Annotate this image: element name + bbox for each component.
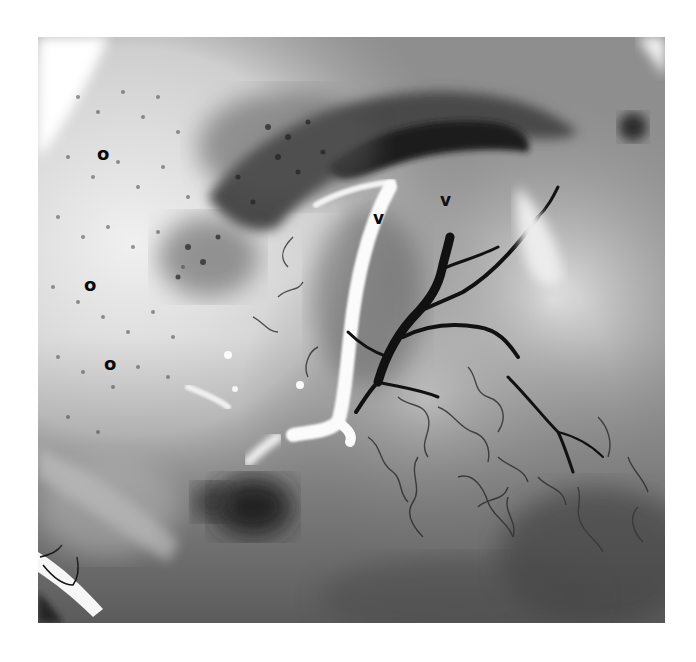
label-o-top: o — [97, 145, 109, 163]
micrograph-image: o o o v v — [38, 37, 665, 623]
label-o-bottom: o — [104, 355, 116, 373]
label-v-dark-vessel: v — [440, 192, 451, 209]
micrograph-illustration — [38, 37, 665, 623]
label-o-middle: o — [84, 276, 96, 294]
label-v-white-vessel: v — [373, 210, 384, 227]
